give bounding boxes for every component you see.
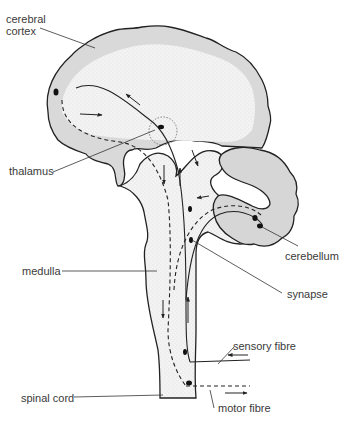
cerebellum — [213, 147, 298, 246]
label-motor-fibre: motor fibre — [218, 402, 271, 414]
label-cerebral-cortex-line1: cerebral — [6, 13, 46, 25]
label-spinal-cord: spinal cord — [21, 392, 74, 404]
label-cerebellum: cerebellum — [285, 250, 339, 262]
label-medulla: medulla — [22, 265, 61, 277]
label-cerebral-cortex-line2: cortex — [6, 25, 46, 37]
brainstem-spinal-cord — [120, 151, 270, 398]
brain-pathway-diagram — [0, 0, 343, 427]
label-sensory-fibre: sensory fibre — [233, 340, 296, 352]
label-synapse: synapse — [287, 288, 328, 300]
label-thalamus: thalamus — [9, 165, 54, 177]
label-cerebral-cortex: cerebral cortex — [6, 13, 46, 37]
